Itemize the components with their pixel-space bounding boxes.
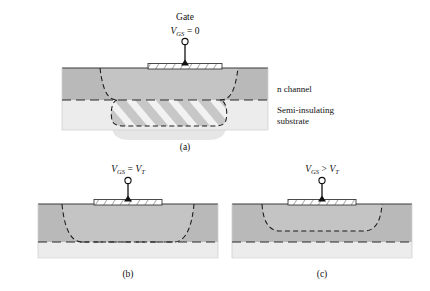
mesfet-depletion-figure: Gate VGS=0 n channel Semi-insulating sub… <box>0 0 430 291</box>
panel-c-gate-terminal-circle <box>319 177 325 183</box>
panel-a-bias-label: VGS=0 <box>171 26 200 37</box>
substrate-label-line1: Semi-insulating <box>277 105 334 115</box>
panel-b-depletion-fill <box>62 204 194 242</box>
panel-b-gate-contact-marker <box>124 196 132 202</box>
panel-a-gate-contact-marker <box>181 60 189 66</box>
panel-c-bias-value-sub: T <box>335 168 340 175</box>
panel-a-gate-terminal-circle <box>182 38 188 44</box>
panel-a-bias-op: = <box>187 26 192 36</box>
panel-a-gate-label: Gate <box>176 12 194 22</box>
panel-b-bias-op: = <box>128 164 133 174</box>
panel-c-bias-op: > <box>322 164 327 174</box>
panel-c-bias-sub: GS <box>311 168 320 175</box>
panel-a-bias-sub: GS <box>176 30 185 37</box>
panel-b-bias-value-sub: T <box>141 168 146 175</box>
panel-a-bias-value: 0 <box>195 26 200 36</box>
n-channel-label: n channel <box>277 84 312 94</box>
substrate-label-line2: substrate <box>277 116 309 126</box>
panel-b-caption: (b) <box>122 269 133 280</box>
panel-a-depletion-upper <box>100 68 238 100</box>
panel-b: VGS=VT (b) <box>38 164 218 280</box>
panel-b-bias-sub: GS <box>117 168 126 175</box>
panel-a-depletion-bulge <box>111 100 227 126</box>
panel-c: VGS>VT (c) <box>232 164 412 280</box>
panel-b-gate-terminal-circle <box>125 177 131 183</box>
panel-c-caption: (c) <box>317 269 328 280</box>
panel-a: Gate VGS=0 n channel Semi-insulating sub… <box>62 12 334 153</box>
panel-c-gate-contact-marker <box>318 196 326 202</box>
figure-root: Gate VGS=0 n channel Semi-insulating sub… <box>0 0 430 291</box>
panel-a-caption: (a) <box>180 142 191 153</box>
panel-c-bias-label: VGS>VT <box>305 164 340 175</box>
panel-c-depletion-fill <box>262 204 382 231</box>
panel-b-bias-label: VGS=VT <box>111 164 146 175</box>
